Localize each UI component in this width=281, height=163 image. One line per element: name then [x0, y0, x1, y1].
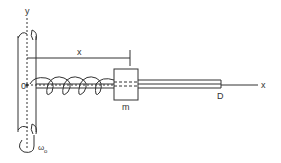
mass-block: [114, 69, 138, 100]
mass-label: m: [122, 102, 130, 112]
diagram-canvas: y 0 x m D x ω o: [0, 0, 281, 163]
x-axis-label: x: [261, 80, 266, 90]
spring: [30, 77, 114, 95]
spring-mass-rotating-rod-diagram: y 0 x m D x ω o: [0, 0, 281, 163]
rod-end-label: D: [217, 91, 224, 101]
y-axis-label: y: [25, 6, 30, 16]
origin-label: 0: [21, 81, 26, 91]
omega-subscript: o: [44, 148, 48, 154]
displacement-label: x: [77, 47, 82, 57]
